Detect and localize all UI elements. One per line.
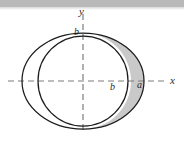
plot-canvas xyxy=(0,0,184,141)
x-intercept-label-a: a xyxy=(137,80,142,90)
y-intercept-label-b: b xyxy=(74,27,79,37)
x-intercept-label-b: b xyxy=(110,82,115,92)
x-axis-label: x xyxy=(170,75,175,86)
y-axis-label: y xyxy=(79,6,84,17)
figure-container: y x b b a xyxy=(0,0,184,141)
